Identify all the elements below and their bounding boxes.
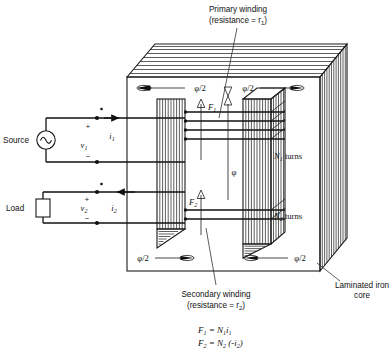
top-face-laminations (130, 47, 351, 74)
secondary-turns-word: turns (285, 211, 303, 221)
primary-winding-label-line2: (resistance = r1) (209, 16, 267, 26)
polarity-dot-primary (100, 108, 103, 111)
secondary-winding-label-line1: Secondary winding (181, 290, 251, 299)
polarity-dot-secondary (100, 183, 103, 186)
transformer-figure: Primary winding (resistance = r1) Second… (0, 0, 392, 358)
turn-junction-dot (184, 119, 187, 122)
transformer-diagram-svg: Primary winding (resistance = r1) Second… (0, 0, 392, 358)
flux-half-bottom-left-label: φ/2 (137, 253, 149, 263)
source-label: Source (3, 136, 29, 145)
flux-arrow-center-phi (224, 87, 232, 200)
primary-resistance-prefix: (resistance = (209, 16, 258, 25)
core-right-face (320, 44, 347, 271)
turn-junction-dot (184, 208, 187, 211)
core-top-face (127, 44, 351, 77)
flux-half-top-left-label: φ/2 (194, 83, 206, 93)
flux-half-bottom-right-label: φ/2 (294, 253, 306, 263)
laminated-core-label-line2: core (354, 291, 370, 300)
primary-voltage-label: v1 (81, 140, 88, 151)
secondary-current-sub: 2 (114, 208, 117, 214)
turn-junction-dot (184, 137, 187, 140)
secondary-resistance-suffix: ) (242, 301, 245, 310)
equation-F1: F1 = N1i1 (197, 325, 232, 336)
primary-winding-label-line1: Primary winding (209, 5, 268, 14)
primary-plus-sign: + (86, 122, 90, 131)
primary-turns-word: turns (285, 151, 303, 161)
secondary-plus-sign: + (85, 195, 89, 204)
secondary-winding-right-leg (243, 88, 285, 258)
load-label: Load (6, 204, 25, 213)
flux-arrow-top-left (137, 85, 185, 91)
flux-arrow-bottom-left (155, 255, 194, 260)
secondary-turns-label: N2 turns (273, 211, 303, 222)
secondary-voltage-label: v2 (81, 203, 88, 214)
flux-arrow-bottom-right (244, 255, 288, 260)
equation-F2: F2 = N2 (-i2) (197, 338, 243, 349)
eq1-i-sub: 1 (229, 330, 232, 336)
mmf-F1-sub: 1 (213, 107, 216, 113)
turn-junction-dot (184, 128, 187, 131)
right-leg-winding-tail-hatch (245, 246, 266, 256)
primary-turns-label: N1 turns (273, 151, 303, 162)
leader-laminated-core (317, 263, 340, 281)
right-face-laminations (322, 46, 345, 268)
primary-current-sub: 1 (112, 136, 115, 142)
primary-minus-sign: − (86, 152, 90, 161)
mmf-F2-sub: 2 (194, 202, 197, 208)
secondary-resistance-prefix: (resistance = (187, 301, 236, 310)
secondary-winding-label-line2: (resistance = r2) (187, 301, 245, 311)
leader-secondary-winding (206, 228, 216, 285)
flux-half-top-right-label: φ/2 (242, 83, 254, 93)
primary-terminal-dot-top (95, 116, 99, 120)
turn-junction-dot (184, 217, 187, 220)
secondary-current-label: i2 (111, 203, 116, 214)
turn-junction-dot (184, 110, 187, 113)
primary-voltage-sub: 1 (84, 145, 87, 151)
primary-terminal-dot-bottom (95, 160, 99, 164)
core-front-face (127, 77, 320, 271)
mmf-F1-label: F1 (207, 102, 216, 113)
load-symbol (36, 199, 50, 217)
secondary-turns-conductors (184, 199, 285, 221)
secondary-terminal-dot-top (95, 190, 99, 194)
primary-resistance-suffix: ) (264, 16, 267, 25)
laminated-core-label-line1: Laminated iron (335, 281, 390, 290)
mmf-F2-label: F2 (188, 197, 197, 208)
primary-turns-conductors (184, 101, 285, 141)
secondary-terminal-dot-bottom (95, 221, 99, 225)
secondary-minus-sign: − (85, 214, 89, 223)
primary-current-label: i1 (109, 131, 114, 142)
flux-center-label: φ (232, 167, 237, 177)
ac-source-symbol (37, 131, 55, 149)
mmf-arrow-F2 (197, 190, 205, 235)
